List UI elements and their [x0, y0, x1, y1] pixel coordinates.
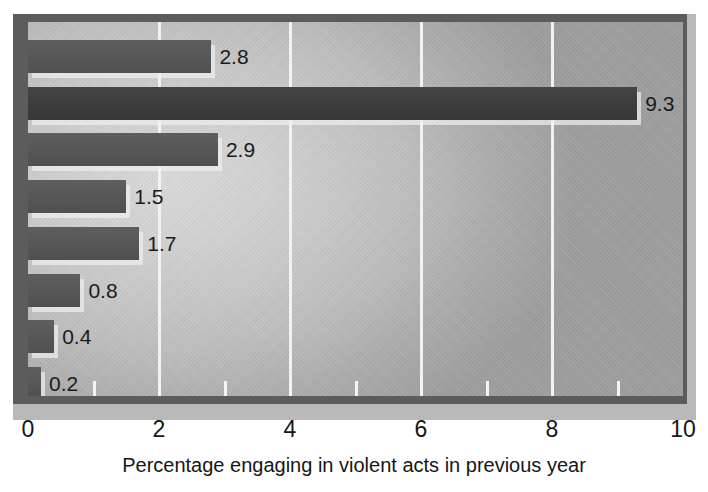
bar-value-label: 0.4 — [62, 326, 91, 347]
x-tick-label-8: 8 — [546, 418, 559, 441]
bar-group: 2.8 — [28, 40, 683, 73]
x-tick-label-10: 10 — [670, 418, 696, 441]
bar-value-label: 2.8 — [219, 46, 248, 67]
bar-group: 1.7 — [28, 227, 683, 260]
bar-group: 1.5 — [28, 180, 683, 213]
chart-figure: 2.89.32.91.51.70.80.40.2 0246810 Percent… — [0, 0, 708, 492]
bar-group: 0.2 — [28, 367, 683, 396]
bar[interactable] — [28, 180, 126, 213]
bar-value-label: 1.5 — [134, 186, 163, 207]
bar[interactable] — [28, 320, 54, 353]
bar-group: 9.3 — [28, 87, 683, 120]
bar[interactable] — [28, 367, 41, 396]
bar-value-label: 0.2 — [49, 373, 78, 394]
x-tick-label-0: 0 — [22, 418, 35, 441]
bar-value-label: 9.3 — [645, 93, 674, 114]
x-tick-label-4: 4 — [284, 418, 297, 441]
bar[interactable] — [28, 40, 211, 73]
x-axis-title: Percentage engaging in violent acts in p… — [0, 455, 708, 475]
bar-group: 0.8 — [28, 274, 683, 307]
bar[interactable] — [28, 133, 218, 166]
bar-group: 0.4 — [28, 320, 683, 353]
x-tick-label-6: 6 — [415, 418, 428, 441]
bar-group: 2.9 — [28, 133, 683, 166]
x-tick-label-2: 2 — [153, 418, 166, 441]
bar[interactable] — [28, 87, 637, 120]
bar-value-label: 2.9 — [226, 139, 255, 160]
bar-value-label: 0.8 — [88, 280, 117, 301]
bar[interactable] — [28, 227, 139, 260]
bar-value-label: 1.7 — [147, 233, 176, 254]
plot-area: 2.89.32.91.51.70.80.40.2 — [28, 22, 683, 396]
bar[interactable] — [28, 274, 80, 307]
